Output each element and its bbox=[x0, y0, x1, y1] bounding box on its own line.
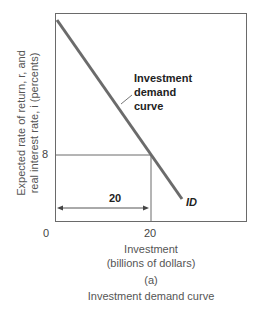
arrowhead-right-icon bbox=[143, 206, 149, 211]
arrowhead-left-icon bbox=[57, 206, 63, 211]
y-axis-label-line2: real interest rate, i (percents) bbox=[28, 18, 41, 228]
y-axis-label: Expected rate of return, r, and real int… bbox=[15, 18, 41, 228]
y-axis-label-line1: Expected rate of return, r, and bbox=[15, 18, 28, 228]
panel-label: (a) bbox=[101, 274, 201, 286]
x-axis-label-line1: Investment bbox=[101, 243, 201, 255]
annotation-line1: Investment bbox=[134, 71, 192, 85]
x-tick-20: 20 bbox=[144, 227, 156, 239]
annotation-line2: demand bbox=[134, 85, 192, 99]
annotation-line3: curve bbox=[134, 99, 192, 113]
annotation-leader-line bbox=[121, 95, 132, 104]
chart-caption: Investment demand curve bbox=[60, 290, 242, 302]
bracket-value-label: 20 bbox=[85, 192, 145, 204]
x-tick-0: 0 bbox=[43, 227, 49, 239]
y-tick-8: 8 bbox=[42, 148, 48, 160]
curve-annotation: Investment demand curve bbox=[134, 71, 192, 113]
x-axis-label-line2: (billions of dollars) bbox=[81, 257, 221, 269]
curve-id-label: ID bbox=[186, 196, 197, 208]
